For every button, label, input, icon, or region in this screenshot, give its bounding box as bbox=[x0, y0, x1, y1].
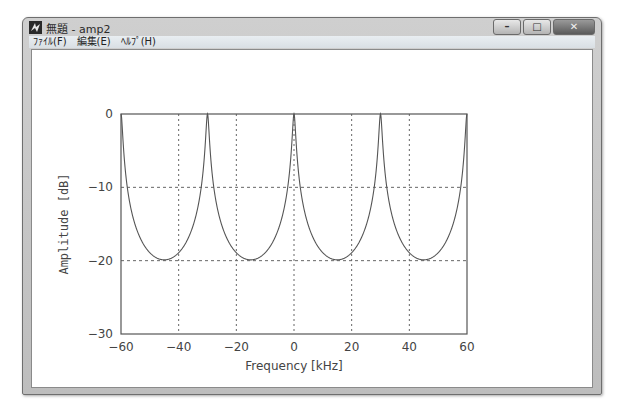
y-tick-label: −30 bbox=[88, 327, 113, 341]
y-tick-label: 0 bbox=[105, 107, 113, 121]
menu-edit[interactable]: 編集(E) bbox=[73, 36, 117, 48]
x-axis-ticks: −60−40−200204060 bbox=[108, 340, 474, 354]
window-controls: – □ ✕ bbox=[493, 19, 595, 35]
x-tick-label: −20 bbox=[224, 340, 249, 354]
x-tick-label: −40 bbox=[166, 340, 191, 354]
x-axis-label: Frequency [kHz] bbox=[245, 359, 342, 373]
window-title: 無題 - amp2 bbox=[46, 20, 110, 36]
close-button[interactable]: ✕ bbox=[553, 19, 595, 35]
title-bar[interactable]: 無題 - amp2 – □ ✕ bbox=[23, 18, 601, 36]
menu-help[interactable]: ﾍﾙﾌﾟ(H) bbox=[117, 36, 162, 48]
close-icon: ✕ bbox=[554, 20, 594, 34]
app-icon bbox=[29, 21, 42, 34]
menu-file[interactable]: ﾌｧｲﾙ(F) bbox=[29, 36, 73, 48]
x-tick-label: 60 bbox=[459, 340, 474, 354]
x-tick-label: 0 bbox=[290, 340, 298, 354]
y-tick-label: −20 bbox=[88, 254, 113, 268]
x-tick-label: −60 bbox=[108, 340, 133, 354]
y-axis-label: Amplitude [dB] bbox=[57, 173, 71, 274]
x-tick-label: 20 bbox=[344, 340, 359, 354]
amplitude-chart: −60−40−200204060 0−10−20−30 Frequency [k… bbox=[32, 50, 592, 387]
minimize-button[interactable]: – bbox=[493, 19, 521, 35]
menu-bar: ﾌｧｲﾙ(F) 編集(E) ﾍﾙﾌﾟ(H) bbox=[29, 36, 595, 48]
maximize-button[interactable]: □ bbox=[523, 19, 551, 35]
minimize-icon: – bbox=[494, 20, 520, 34]
x-tick-label: 40 bbox=[402, 340, 417, 354]
chart-area: −60−40−200204060 0−10−20−30 Frequency [k… bbox=[31, 49, 593, 388]
grid-lines bbox=[121, 114, 467, 334]
maximize-icon: □ bbox=[524, 20, 550, 34]
y-tick-label: −10 bbox=[88, 180, 113, 194]
app-window: 無題 - amp2 – □ ✕ ﾌｧｲﾙ(F) 編集(E) ﾍﾙﾌﾟ(H) −6… bbox=[22, 17, 602, 395]
y-axis-ticks: 0−10−20−30 bbox=[88, 107, 113, 341]
